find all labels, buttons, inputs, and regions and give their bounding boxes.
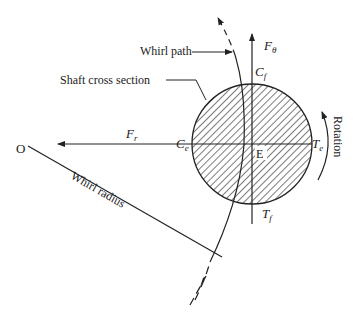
rotation-label: Rotation [331, 116, 345, 157]
whirl-path-arc-top [218, 18, 235, 55]
shaft-cross-section-label: Shaft cross section [60, 73, 150, 87]
origin-o-label: O [16, 141, 25, 156]
whirl-radius-label: Whirl radius [69, 168, 129, 210]
t-e-label: Te [312, 136, 323, 153]
shaft-cross-section-leader [166, 80, 206, 100]
diagram-svg: Whirl path Shaft cross section Fθ Cf Fr … [0, 0, 359, 317]
whirl-path-label: Whirl path [140, 44, 192, 58]
c-e-label: Ce [176, 136, 189, 153]
f-r-label: Fr [125, 126, 138, 143]
t-f-label: Tf [262, 206, 273, 223]
c-f-label: Cf [255, 64, 268, 81]
shaft-whirl-diagram: Whirl path Shaft cross section Fθ Cf Fr … [0, 0, 359, 317]
f-theta-label: Fθ [263, 38, 277, 55]
center-e-label: E [256, 147, 263, 161]
